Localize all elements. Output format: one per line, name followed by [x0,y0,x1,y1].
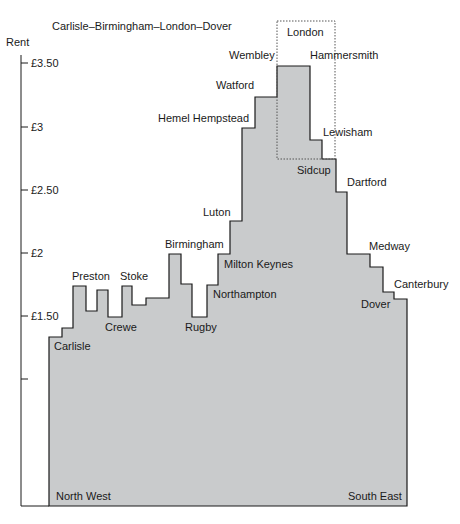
label-rugby: Rugby [185,321,217,333]
label-medway: Medway [369,240,410,252]
region-label-north-west: North West [56,490,111,502]
tick-label: £3.50 [31,57,59,69]
label-crewe: Crewe [105,321,137,333]
label-hemel-hempstead: Hemel Hempstead [158,112,249,124]
label-northampton: Northampton [213,288,277,300]
label-stoke: Stoke [120,270,148,282]
tick-label: £1.50 [31,310,59,322]
tick-label: £2 [31,247,43,259]
label-canterbury: Canterbury [394,278,449,290]
label-wembley: Wembley [229,49,275,61]
chart-title: Carlisle–Birmingham–London–Dover [52,20,232,32]
label-preston: Preston [72,270,110,282]
label-hammersmith: Hammersmith [310,49,378,61]
label-watford: Watford [216,79,254,91]
y-axis-label: Rent [6,36,29,48]
region-label-south-east: South East [348,490,402,502]
y-axis-tick-labels: £3.50 £3 £2.50 £2 £1.50 [31,57,59,322]
label-carlisle: Carlisle [54,340,91,352]
label-dover: Dover [361,298,391,310]
label-dartford: Dartford [347,176,387,188]
label-luton: Luton [203,206,231,218]
label-london: London [287,26,324,38]
rent-step-chart: Carlisle–Birmingham–London–Dover Rent £3… [0,0,460,524]
tick-label: £3 [31,121,43,133]
label-milton-keynes: Milton Keynes [224,258,294,270]
tick-label: £2.50 [31,184,59,196]
label-birmingham: Birmingham [165,238,224,250]
label-sidcup: Sidcup [297,164,331,176]
label-lewisham: Lewisham [323,126,373,138]
y-axis-ticks [21,63,28,379]
